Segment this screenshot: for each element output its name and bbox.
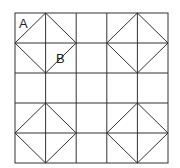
grid-lines — [15, 13, 168, 163]
label-a: A — [19, 16, 28, 31]
diagonal-lines — [15, 13, 168, 163]
label-b: B — [56, 51, 65, 66]
quilt-diagram: A B — [0, 0, 180, 168]
